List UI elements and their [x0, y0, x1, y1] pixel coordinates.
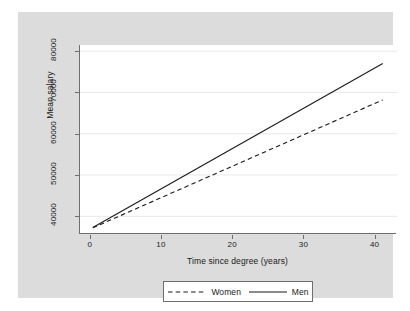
legend-label-women: Women — [211, 287, 241, 297]
graph-region: Mean salary 4000050000600007000080000 01… — [18, 12, 393, 298]
y-tick-label: 60000 — [49, 112, 58, 152]
chart-legend: Women Men — [163, 281, 313, 302]
solid-line-icon — [248, 288, 288, 296]
series-line-men — [93, 64, 383, 228]
y-tick-label: 50000 — [49, 153, 58, 193]
legend-label-men: Men — [292, 287, 309, 297]
series-line-women — [93, 100, 383, 228]
x-tick-mark — [161, 235, 162, 239]
x-tick-label: 40 — [360, 240, 390, 249]
y-tick-label: 70000 — [49, 71, 58, 111]
plot-area — [79, 45, 396, 234]
x-tick-mark — [90, 235, 91, 239]
chart-screenshot: Mean salary 4000050000600007000080000 01… — [0, 0, 410, 311]
y-tick-label: 80000 — [49, 30, 58, 70]
y-tick-label: 40000 — [49, 195, 58, 235]
x-tick-label: 30 — [288, 240, 318, 249]
x-tick-label: 20 — [217, 240, 247, 249]
x-tick-label: 0 — [75, 240, 105, 249]
dashed-line-icon — [167, 288, 207, 296]
plot-lines — [80, 45, 397, 234]
x-tick-mark — [375, 235, 376, 239]
legend-item-men: Men — [248, 287, 309, 297]
legend-item-women: Women — [167, 287, 241, 297]
x-axis-title: Time since degree (years) — [79, 256, 396, 266]
x-tick-mark — [232, 235, 233, 239]
x-tick-mark — [303, 235, 304, 239]
x-tick-label: 10 — [146, 240, 176, 249]
